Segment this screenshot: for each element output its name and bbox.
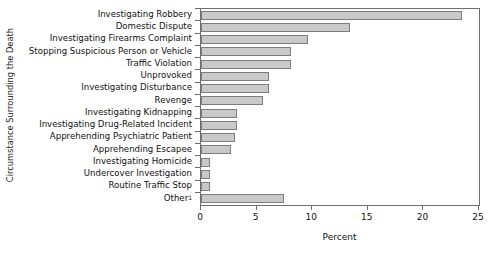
category-label: Investigating Disturbance bbox=[18, 82, 196, 94]
x-axis-tick-label: 15 bbox=[361, 212, 372, 222]
category-label: Unprovoked bbox=[18, 69, 196, 81]
category-label: Revenge bbox=[18, 94, 196, 106]
x-axis-tick-label: 20 bbox=[417, 212, 428, 222]
category-label: Investigating Kidnapping bbox=[18, 106, 196, 118]
bar bbox=[201, 84, 269, 93]
bar-row bbox=[201, 132, 479, 144]
bar bbox=[201, 133, 235, 142]
plot-area bbox=[200, 8, 480, 206]
category-label: Investigating Firearms Complaint bbox=[18, 33, 196, 45]
bar bbox=[201, 47, 291, 56]
bar-row bbox=[201, 34, 479, 46]
bar-row bbox=[201, 95, 479, 107]
bar bbox=[201, 145, 231, 154]
category-label: Investigating Robbery bbox=[18, 8, 196, 20]
bar-row bbox=[201, 156, 479, 168]
bar-row bbox=[201, 9, 479, 21]
y-axis-title-text: Circumstance Surrounding the Death bbox=[5, 28, 15, 182]
bar-chart: Circumstance Surrounding the Death Inves… bbox=[0, 0, 502, 265]
category-label: Routine Traffic Stop bbox=[18, 180, 196, 192]
bar-row bbox=[201, 21, 479, 33]
bar-row bbox=[201, 70, 479, 82]
x-axis-tick-label: 5 bbox=[253, 212, 259, 222]
x-axis-tick bbox=[422, 205, 423, 210]
bar bbox=[201, 11, 462, 20]
bar bbox=[201, 182, 210, 191]
bar bbox=[201, 194, 284, 203]
bar bbox=[201, 158, 210, 167]
category-label: Apprehending Escapee bbox=[18, 143, 196, 155]
bar-row bbox=[201, 168, 479, 180]
x-axis-line bbox=[200, 205, 479, 206]
bar bbox=[201, 96, 263, 105]
bar bbox=[201, 121, 237, 130]
bar bbox=[201, 170, 210, 179]
bar bbox=[201, 60, 291, 69]
x-axis-tick-label: 25 bbox=[472, 212, 483, 222]
bar-row bbox=[201, 119, 479, 131]
x-axis-tick bbox=[256, 205, 257, 210]
bar-row bbox=[201, 107, 479, 119]
x-axis-tick-label: 10 bbox=[305, 212, 316, 222]
bar bbox=[201, 109, 237, 118]
bar-row bbox=[201, 144, 479, 156]
bar-row bbox=[201, 193, 479, 205]
x-axis-tick bbox=[311, 205, 312, 210]
category-label: Investigating Homicide bbox=[18, 155, 196, 167]
bar-series bbox=[201, 9, 479, 205]
x-axis-tick-label: 0 bbox=[197, 212, 203, 222]
bar-row bbox=[201, 83, 479, 95]
bar bbox=[201, 35, 308, 44]
bar-row bbox=[201, 58, 479, 70]
category-label: Undercover Investigation bbox=[18, 167, 196, 179]
x-axis-tick bbox=[367, 205, 368, 210]
y-axis-title: Circumstance Surrounding the Death bbox=[2, 0, 18, 210]
category-label: Apprehending Psychiatric Patient bbox=[18, 131, 196, 143]
category-label: Stopping Suspicious Person or Vehicle bbox=[18, 45, 196, 57]
bar-row bbox=[201, 181, 479, 193]
x-axis-tick bbox=[478, 205, 479, 210]
x-axis-tick bbox=[200, 205, 201, 210]
category-label: Traffic Violation bbox=[18, 57, 196, 69]
category-label: Investigating Drug-Related Incident bbox=[18, 118, 196, 130]
bar-row bbox=[201, 46, 479, 58]
bar bbox=[201, 23, 350, 32]
bar bbox=[201, 72, 269, 81]
category-label-list: Investigating RobberyDomestic DisputeInv… bbox=[18, 8, 196, 204]
category-label: Other1 bbox=[18, 192, 196, 204]
category-label: Domestic Dispute bbox=[18, 20, 196, 32]
x-axis-title: Percent bbox=[200, 232, 479, 242]
